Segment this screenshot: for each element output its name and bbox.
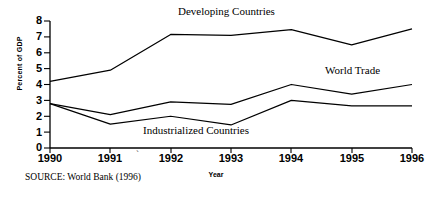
series-label-world-trade: World Trade	[325, 64, 380, 76]
x-tick-label-1992: 1992	[148, 152, 194, 164]
x-tick-label-1991: 1991	[87, 152, 133, 164]
line-chart-plot	[0, 0, 436, 197]
y-tick-label-2: 2	[28, 111, 42, 122]
x-tick-label-1995: 1995	[329, 152, 375, 164]
x-tick-label-1996: 1996	[389, 152, 435, 164]
series-label-developing-countries: Developing Countries	[178, 5, 275, 17]
y-tick-marks	[44, 21, 50, 148]
y-tick-label-8: 8	[28, 15, 42, 26]
x-tick-label-1994: 1994	[268, 152, 314, 164]
chart-screenshot: Percent of GDP 8 7 6 5 4 3 2 1 0 1990 19…	[0, 0, 436, 197]
y-tick-label-1: 1	[28, 127, 42, 138]
scan-artifact-mark: `	[136, 149, 139, 159]
y-tick-label-4: 4	[28, 79, 42, 90]
series-label-industrialized-countries: Industrialized Countries	[143, 124, 249, 136]
y-tick-label-7: 7	[28, 31, 42, 42]
source-note: SOURCE: World Bank (1996)	[25, 172, 141, 183]
x-axis-title: Year	[186, 171, 246, 178]
y-tick-label-5: 5	[28, 63, 42, 74]
y-tick-label-3: 3	[28, 95, 42, 106]
x-tick-label-1993: 1993	[208, 152, 254, 164]
y-axis-title: Percent of GDP	[16, 24, 23, 104]
series-line-world-trade	[50, 85, 412, 115]
y-tick-label-6: 6	[28, 47, 42, 58]
x-tick-label-1990: 1990	[27, 152, 73, 164]
